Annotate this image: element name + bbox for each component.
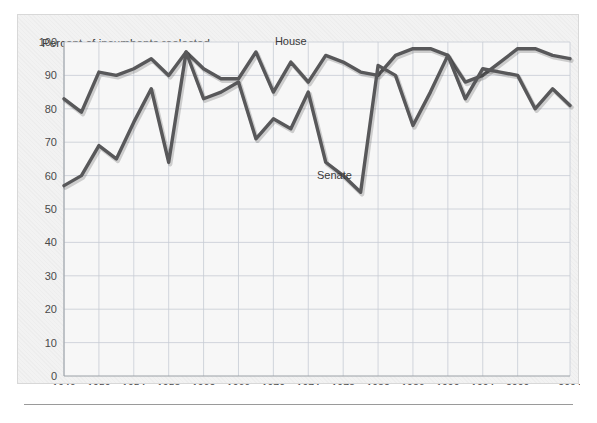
series-annotation-senate: Senate [317, 169, 352, 181]
x-axis-tick-label: 1986 [401, 382, 425, 385]
y-axis-tick-label: 20 [45, 303, 57, 315]
x-axis-tick-label: 1954 [122, 382, 146, 385]
x-axis-tick-label: 1946 [52, 382, 76, 385]
x-axis-tick-label: 1994 [471, 382, 495, 385]
bottom-divider-rule [24, 404, 573, 405]
y-axis-tick-label: 80 [45, 103, 57, 115]
y-axis-tick-label: 30 [45, 270, 57, 282]
x-axis-tick-label: 1966 [227, 382, 251, 385]
y-axis-tick-label: 10 [45, 337, 57, 349]
y-axis-tick-label: 50 [45, 203, 57, 215]
x-axis-tick-label: 1950 [87, 382, 111, 385]
x-axis-tick-label: 2004 [558, 382, 580, 385]
x-axis-tick-label: 2000 [506, 382, 530, 385]
y-axis-tick-label: 90 [45, 69, 57, 81]
y-axis-tick-label: 70 [45, 136, 57, 148]
x-axis-tick-label: 1958 [157, 382, 181, 385]
y-axis-tick-label: 60 [45, 170, 57, 182]
y-axis-tick-label: 100 [39, 36, 57, 48]
chart-figure: Percent of incumbents reelected 01020304… [0, 0, 597, 423]
x-axis-tick-label: 1970 [262, 382, 286, 385]
x-axis-tick-label: 1974 [297, 382, 321, 385]
series-annotation-house: House [275, 35, 307, 47]
chart-panel: Percent of incumbents reelected 01020304… [17, 14, 579, 384]
x-axis-tick-label: 1978 [331, 382, 355, 385]
y-axis-tick-label: 0 [51, 370, 57, 382]
x-axis-tick-label: 1990 [436, 382, 460, 385]
line-chart-plot: 0102030405060708090100194619501954195819… [18, 15, 580, 385]
y-axis-tick-label: 40 [45, 236, 57, 248]
x-axis-tick-label: 1982 [366, 382, 390, 385]
x-axis-tick-label: 1962 [192, 382, 216, 385]
